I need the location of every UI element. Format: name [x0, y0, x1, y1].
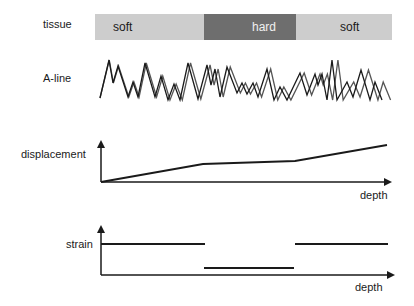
diagram-plots: [0, 0, 414, 306]
strain-plot: [101, 227, 393, 275]
aline-waveform: [100, 60, 391, 100]
displacement-curve: [101, 145, 387, 182]
displacement-plot: [101, 142, 390, 182]
aline-post-compression: [100, 60, 391, 100]
